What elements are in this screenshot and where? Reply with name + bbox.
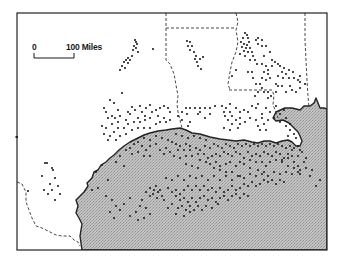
well-dot: [271, 155, 273, 157]
well-dot: [247, 185, 249, 187]
well-dot: [293, 167, 295, 169]
well-dot: [196, 61, 198, 63]
well-dot: [241, 145, 243, 147]
well-dot: [248, 41, 250, 43]
well-dot: [249, 117, 251, 119]
well-dot: [275, 91, 277, 93]
well-dot: [237, 127, 239, 129]
well-dot: [149, 127, 151, 129]
well-dot: [221, 147, 223, 149]
well-dot: [127, 123, 129, 125]
well-dot: [265, 45, 267, 47]
well-dot: [267, 97, 269, 99]
well-dot: [231, 115, 233, 117]
well-dot: [145, 207, 147, 209]
well-dot: [123, 127, 125, 129]
well-dot: [134, 39, 136, 41]
well-dot: [54, 199, 56, 201]
well-dot: [247, 111, 249, 113]
well-dot: [183, 215, 185, 217]
well-dot: [261, 161, 263, 163]
well-dot: [249, 145, 251, 147]
well-dot: [215, 153, 217, 155]
well-dot: [181, 111, 183, 113]
well-dot: [145, 191, 147, 193]
well-dot: [237, 175, 239, 177]
well-dot: [231, 75, 233, 77]
well-dot: [271, 59, 273, 61]
well-dot: [145, 107, 147, 109]
well-dot: [171, 179, 173, 181]
well-dot: [51, 167, 53, 169]
well-dot: [135, 47, 137, 49]
well-dot: [51, 189, 53, 191]
well-dot: [127, 57, 129, 59]
well-dot: [259, 83, 261, 85]
well-dot: [121, 92, 123, 94]
well-dot: [193, 209, 195, 211]
well-dot: [299, 169, 301, 171]
well-dot: [311, 169, 313, 171]
well-dot: [243, 163, 245, 165]
well-dot: [159, 121, 161, 123]
well-dot: [255, 175, 257, 177]
well-dot: [205, 161, 207, 163]
well-dot: [155, 135, 157, 137]
well-dot: [189, 149, 191, 151]
well-dot: [285, 147, 287, 149]
scale-end-label: 100 Miles: [66, 42, 102, 52]
well-dot: [179, 157, 181, 159]
well-dot: [205, 205, 207, 207]
well-dot: [132, 49, 134, 51]
well-dot: [209, 107, 211, 109]
well-dot: [201, 209, 203, 211]
well-dot: [259, 155, 261, 157]
well-dot: [263, 91, 265, 93]
well-dot: [243, 109, 245, 111]
well-dot: [219, 187, 221, 189]
well-dot: [179, 199, 181, 201]
well-dot: [189, 121, 191, 123]
well-dot: [219, 169, 221, 171]
well-dot: [129, 197, 131, 199]
well-dot: [289, 85, 291, 87]
well-dot: [183, 149, 185, 151]
well-dot: [127, 62, 129, 64]
well-dot: [131, 106, 133, 108]
well-dot: [263, 55, 265, 57]
well-dot: [137, 151, 139, 153]
well-dot: [149, 155, 151, 157]
well-dot: [113, 102, 115, 104]
well-dot: [269, 111, 271, 113]
well-dot: [175, 213, 177, 215]
well-dot: [46, 162, 48, 164]
well-dot: [157, 115, 159, 117]
well-dot: [297, 145, 299, 147]
well-dot: [235, 107, 237, 109]
well-dot: [123, 61, 125, 63]
well-dot: [277, 143, 279, 145]
well-dot: [189, 205, 191, 207]
well-dot: [52, 169, 54, 171]
well-dot: [200, 68, 202, 70]
well-dot: [297, 155, 299, 157]
well-dot: [191, 197, 193, 199]
well-dot: [243, 193, 245, 195]
well-dot: [187, 45, 189, 47]
well-dot: [119, 135, 121, 137]
well-dot: [257, 43, 259, 45]
well-dot: [288, 69, 290, 71]
well-dot: [107, 139, 109, 141]
well-dot: [165, 121, 167, 123]
well-dot: [111, 115, 113, 117]
well-dot: [255, 161, 257, 163]
well-dot: [161, 137, 163, 139]
well-dot: [155, 185, 157, 187]
well-dot: [267, 73, 269, 75]
well-dot: [152, 48, 154, 50]
well-dot: [235, 189, 237, 191]
well-dot: [255, 119, 257, 121]
well-dot: [163, 199, 165, 201]
well-dot: [229, 129, 231, 131]
well-dot: [237, 143, 239, 145]
